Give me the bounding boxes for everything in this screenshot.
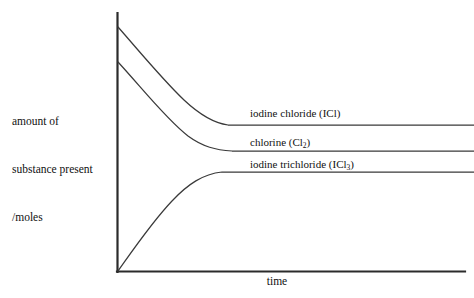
curve-label-chlorine-prefix: chlorine (Cl: [250, 136, 303, 148]
curve-label-iodine-trichloride: iodine trichloride (ICl3): [250, 158, 354, 172]
y-axis-title-line-1: amount of: [12, 113, 93, 129]
x-axis-title: time: [232, 275, 322, 287]
curve-label-iodine-chloride: iodine chloride (ICl): [250, 107, 340, 119]
y-axis-title-line-3: /moles: [12, 209, 93, 225]
curve-iodine-trichloride: [118, 172, 474, 271]
y-axis-title-line-2: substance present: [12, 161, 93, 177]
curve-label-iodine-trichloride-prefix: iodine trichloride (ICl: [250, 158, 347, 170]
curve-label-chlorine: chlorine (Cl2): [250, 136, 310, 150]
curve-label-chlorine-suffix: ): [307, 136, 311, 148]
y-axis-title: amount of substance present /moles: [12, 81, 93, 257]
figure-container: amount of substance present /moles time …: [0, 0, 474, 298]
curve-label-iodine-trichloride-suffix: ): [350, 158, 354, 170]
